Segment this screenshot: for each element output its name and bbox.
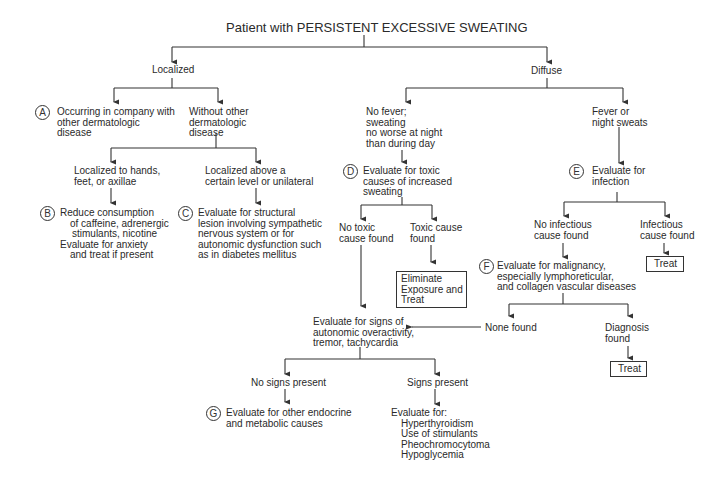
- label-d-icon: D: [343, 164, 358, 179]
- node-b-reduce-consumption: Reduce consumptionof caffeine, adrenergi…: [60, 208, 169, 261]
- node-d-toxic-causes: Evaluate for toxic causes of increased s…: [363, 166, 452, 198]
- node-c-structural-lesion: Evaluate for structural lesion involving…: [198, 208, 322, 261]
- node-autonomic-overactivity: Evaluate for signs of autonomic overacti…: [313, 317, 414, 349]
- node-eliminate-exposure: Eliminate Exposure and Treat: [401, 274, 463, 306]
- node-treat-infection: Treat: [654, 259, 677, 270]
- b-line-5: and treat if present: [60, 250, 169, 261]
- b-line-1: Reduce consumption: [60, 208, 169, 219]
- label-g-icon: G: [206, 406, 221, 421]
- evaluate-item: Hypoglycemia: [391, 450, 490, 461]
- node-no-fever: No fever; sweating no worse at night tha…: [366, 107, 442, 149]
- node-a-other-dermatologic: Occurring in company with other dermatol…: [57, 107, 175, 139]
- node-evaluate-for: Evaluate for:HyperthyroidismUse of stimu…: [391, 408, 490, 461]
- node-toxic-cause-found: Toxic cause found: [410, 223, 462, 244]
- node-g-endocrine-metabolic: Evaluate for other endocrine and metabol…: [226, 408, 352, 429]
- node-treat-diagnosis: Treat: [618, 364, 641, 375]
- label-a-icon: A: [35, 105, 50, 120]
- label-f-icon: F: [479, 259, 494, 274]
- node-hands-feet-axillae: Localized to hands, feet, or axillae: [74, 166, 160, 187]
- label-b-icon: B: [40, 206, 55, 221]
- b-line-3: stimulants, nicotine: [60, 229, 169, 240]
- node-e-infection: Evaluate for infection: [592, 166, 645, 187]
- label-c-icon: C: [178, 206, 193, 221]
- label-e-icon: E: [569, 164, 584, 179]
- node-diffuse: Diffuse: [531, 66, 562, 77]
- node-signs-present: Signs present: [407, 378, 468, 389]
- node-without-other-dermatologic: Without other dermatologic disease: [189, 107, 248, 139]
- node-no-signs-present: No signs present: [251, 378, 326, 389]
- node-localized: Localized: [152, 65, 194, 76]
- evaluate-item: Use of stimulants: [391, 429, 490, 440]
- node-diagnosis-found: Diagnosis found: [605, 323, 649, 344]
- node-infectious-cause-found: Infectious cause found: [640, 220, 695, 241]
- node-no-toxic-cause: No toxic cause found: [339, 223, 394, 244]
- node-no-infectious-cause: No infectious cause found: [534, 220, 592, 241]
- node-above-level-unilateral: Localized above a certain level or unila…: [205, 166, 313, 187]
- evaluate-for-heading: Evaluate for:: [391, 408, 490, 419]
- node-none-found: None found: [485, 323, 537, 334]
- diagram-title: Patient with PERSISTENT EXCESSIVE SWEATI…: [226, 20, 528, 35]
- node-f-malignancy: Evaluate for malignancy, especially lymp…: [497, 261, 636, 293]
- node-fever-night-sweats: Fever or night sweats: [592, 107, 648, 128]
